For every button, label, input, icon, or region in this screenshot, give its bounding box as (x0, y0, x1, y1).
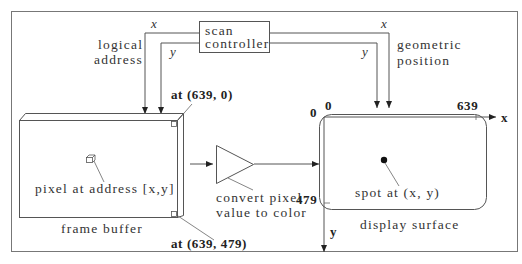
geometric-caption-1: geometric (397, 38, 462, 52)
wire-geometric-x (270, 33, 389, 108)
y-axis-label: y (330, 225, 337, 238)
logical-caption-1: logical (98, 38, 143, 52)
max-x-label: 639 (457, 99, 478, 112)
corner-top-label: at (639, 0) (171, 88, 233, 101)
raster-display-diagram: scan controller x y logical address x y … (0, 0, 522, 264)
spot-icon (381, 157, 387, 163)
geometric-x-label: x (381, 17, 387, 30)
wire-logical-y (161, 43, 199, 114)
frame-buffer-shape (20, 104, 215, 240)
max-y-label: 479 (296, 193, 317, 206)
logical-caption-2: address (94, 53, 143, 67)
geometric-caption-2: position (397, 54, 450, 68)
origin-y-label: 0 (310, 106, 317, 119)
converter-label-2: value to color (216, 206, 307, 220)
x-axis-label: x (501, 111, 508, 124)
origin-x-label: 0 (325, 99, 332, 112)
corner-bottom-label: at (639, 479) (171, 237, 247, 250)
display-surface-title: display surface (360, 218, 459, 232)
logical-y-label: y (170, 45, 176, 58)
logical-x-label: x (151, 17, 157, 30)
wire-geometric-y (270, 43, 377, 108)
geometric-y-label: y (362, 45, 368, 58)
frame-buffer-title: frame buffer (61, 222, 143, 236)
converter-triangle-icon (217, 146, 254, 184)
spot-label: spot at (x, y) (355, 186, 440, 200)
scan-controller-label-2: controller (205, 37, 269, 51)
pixel-address-label: pixel at address [x,y] (35, 182, 175, 196)
converter-label-1: convert pixel (216, 191, 302, 205)
